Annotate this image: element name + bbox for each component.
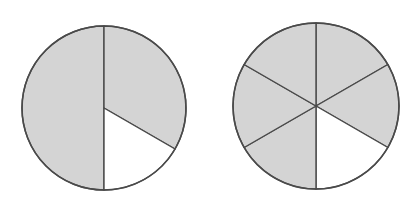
left-circle [22, 26, 186, 190]
fraction-circles-figure [0, 0, 419, 216]
shaded-sector [22, 26, 104, 190]
right-circle [233, 23, 399, 189]
